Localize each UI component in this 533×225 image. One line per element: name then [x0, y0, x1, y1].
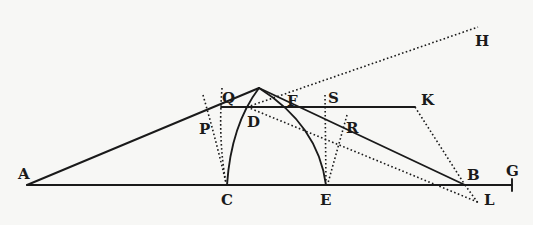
label-K: K	[421, 91, 435, 109]
geometric-figure: A C E B G L P Q D F S K R H	[0, 0, 533, 225]
label-H: H	[475, 32, 489, 50]
label-P: P	[199, 120, 210, 138]
dotted-D-H	[247, 27, 478, 107]
dotted-arc-P	[203, 95, 226, 183]
label-Q: Q	[222, 89, 235, 107]
label-B: B	[467, 166, 480, 184]
label-S: S	[328, 89, 339, 107]
label-C: C	[221, 191, 233, 209]
label-E: E	[320, 191, 331, 209]
label-D: D	[247, 113, 260, 131]
label-F: F	[287, 92, 298, 110]
dotted-B-L	[465, 185, 478, 203]
label-G: G	[506, 162, 519, 180]
label-L: L	[484, 191, 495, 209]
label-A: A	[17, 165, 30, 183]
label-R: R	[346, 119, 359, 137]
